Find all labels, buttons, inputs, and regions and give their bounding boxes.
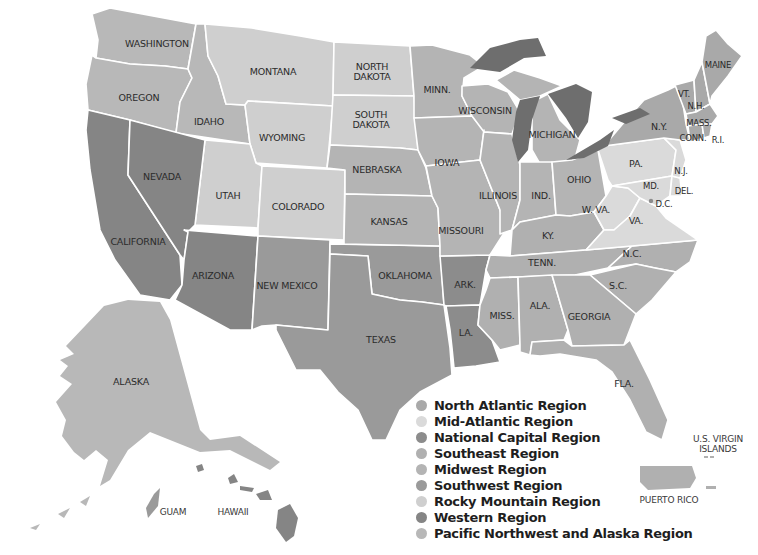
label-minnesota: MINN.: [423, 85, 450, 95]
region-map: …Field Stations: [0, 0, 758, 555]
legend-dot-icon: [416, 480, 427, 491]
label-texas: TEXAS: [366, 335, 396, 345]
label-illinois: ILLINOIS: [479, 191, 517, 201]
label-ohio: OHIO: [567, 175, 591, 185]
legend-label: Rocky Mountain Region: [434, 494, 600, 509]
label-hawaii: HAWAII: [217, 507, 248, 517]
label-california: CALIFORNIA: [110, 237, 165, 247]
label-new-jersey: N.J.: [674, 166, 687, 176]
label-idaho: IDAHO: [194, 117, 224, 127]
legend-item-national-capital[interactable]: National Capital Region: [416, 429, 693, 445]
label-new-mexico: NEW MEXICO: [256, 281, 317, 291]
label-alaska: ALASKA: [113, 377, 149, 387]
label-washington: WASHINGTON: [125, 39, 189, 49]
label-delaware: DEL.: [675, 186, 694, 196]
label-dc: D.C.: [655, 199, 672, 209]
state-montana[interactable]: [205, 24, 334, 106]
label-oklahoma: OKLAHOMA: [378, 271, 431, 281]
label-virginia: VA.: [629, 216, 644, 226]
usvi-stthomas: [704, 456, 708, 458]
label-oregon: OREGON: [119, 93, 160, 103]
legend-label: North Atlantic Region: [434, 398, 586, 413]
label-new-york: N.Y.: [651, 122, 667, 132]
alaska-aleutian-1: [80, 496, 90, 506]
label-georgia: GEORGIA: [568, 312, 611, 322]
usvi-stcroix: [706, 486, 716, 489]
legend-label: Pacific Northwest and Alaska Region: [434, 526, 693, 541]
label-iowa: IOWA: [435, 158, 460, 168]
dc-marker[interactable]: [649, 199, 653, 203]
label-pennsylvania: PA.: [629, 159, 643, 169]
legend-label: National Capital Region: [434, 430, 600, 445]
label-indiana: IND.: [531, 191, 550, 201]
usvi-stjohn: [710, 456, 714, 458]
label-guam: GUAM: [160, 507, 187, 517]
label-montana: MONTANA: [250, 67, 297, 77]
legend-dot-icon: [416, 432, 427, 443]
hawaii-oahu: [228, 474, 238, 484]
label-tennessee: TENN.: [528, 258, 556, 268]
label-maine: MAINE: [705, 60, 731, 70]
label-new-hampshire: N.H.: [687, 101, 704, 111]
label-rhode-island: R.I.: [712, 135, 725, 145]
hawaii-kauai: [196, 464, 204, 472]
alaska-aleutian-3: [30, 524, 40, 530]
legend-dot-icon: [416, 528, 427, 539]
label-connecticut: CONN.: [679, 133, 706, 143]
legend-label: Southeast Region: [434, 446, 559, 461]
label-michigan: MICHIGAN: [529, 130, 576, 140]
label-wyoming: WYOMING: [259, 133, 305, 143]
legend-item-rocky-mountain[interactable]: Rocky Mountain Region: [416, 493, 693, 509]
label-north-carolina: N.C.: [623, 249, 642, 259]
state-utah[interactable]: [195, 140, 262, 228]
legend-dot-icon: [416, 464, 427, 475]
legend-item-southwest[interactable]: Southwest Region: [416, 477, 693, 493]
label-south-dakota: SOUTHDAKOTA: [352, 110, 389, 130]
legend-label: Mid-Atlantic Region: [434, 414, 573, 429]
legend-dot-icon: [416, 400, 427, 411]
territory-guam[interactable]: [146, 488, 160, 518]
label-wisconsin: WISCONSIN: [458, 106, 512, 116]
hawaii-molokai: [240, 486, 254, 492]
label-south-carolina: S.C.: [609, 281, 627, 291]
label-mississippi: MISS.: [489, 311, 514, 321]
legend-dot-icon: [416, 496, 427, 507]
label-kentucky: KY.: [542, 231, 554, 241]
legend-label: Midwest Region: [434, 462, 547, 477]
legend-label: Western Region: [434, 510, 546, 525]
label-arizona: ARIZONA: [192, 271, 234, 281]
legend-item-pacific-northwest-alaska[interactable]: Pacific Northwest and Alaska Region: [416, 525, 693, 541]
legend-item-western[interactable]: Western Region: [416, 509, 693, 525]
label-west-virginia: W. VA.: [582, 205, 610, 215]
legend-label: Southwest Region: [434, 478, 562, 493]
label-north-dakota: NORTHDAKOTA: [353, 62, 390, 82]
legend-item-midwest[interactable]: Midwest Region: [416, 461, 693, 477]
label-us-virgin-islands: U.S. VIRGINISLANDS: [693, 434, 743, 454]
label-missouri: MISSOURI: [438, 226, 483, 236]
label-kansas: KANSAS: [370, 217, 407, 227]
map-legend: North Atlantic Region Mid-Atlantic Regio…: [416, 397, 693, 541]
label-florida: FLA.: [614, 379, 634, 389]
alaska-aleutian-2: [58, 508, 70, 518]
label-vermont: VT.: [678, 89, 690, 99]
label-colorado: COLORADO: [272, 202, 324, 212]
hawaii-big-island[interactable]: [276, 504, 298, 542]
label-louisiana: LA.: [459, 328, 473, 338]
label-nebraska: NEBRASKA: [352, 165, 401, 175]
legend-item-north-atlantic[interactable]: North Atlantic Region: [416, 397, 693, 413]
legend-dot-icon: [416, 416, 427, 427]
label-nevada: NEVADA: [143, 172, 181, 182]
hawaii-maui: [256, 490, 272, 500]
legend-dot-icon: [416, 448, 427, 459]
label-utah: UTAH: [216, 191, 241, 201]
label-massachusetts: MASS.: [686, 118, 712, 128]
label-arkansas: ARK.: [454, 280, 476, 290]
lake-superior: [470, 38, 546, 72]
label-maryland: MD.: [643, 181, 659, 191]
label-alabama: ALA.: [530, 301, 551, 311]
legend-dot-icon: [416, 512, 427, 523]
legend-item-mid-atlantic[interactable]: Mid-Atlantic Region: [416, 413, 693, 429]
legend-item-southeast[interactable]: Southeast Region: [416, 445, 693, 461]
